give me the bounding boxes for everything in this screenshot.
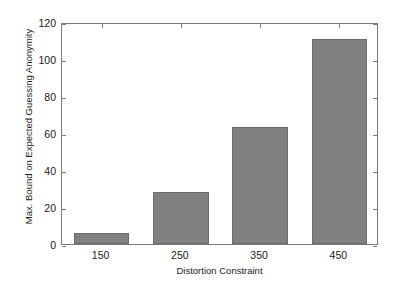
y-tick-label: 60 bbox=[44, 129, 56, 140]
y-tick-mark bbox=[62, 246, 66, 247]
y-tick-label: 120 bbox=[38, 18, 56, 29]
x-tick-label: 250 bbox=[171, 250, 189, 261]
y-axis-title-container: Max. Bound on Expected Guessing Anonymit… bbox=[0, 0, 1, 1]
plot-area bbox=[61, 23, 378, 245]
bar-150 bbox=[74, 233, 129, 244]
bar-450 bbox=[312, 39, 367, 244]
y-tick-label: 20 bbox=[44, 203, 56, 214]
bar-250 bbox=[153, 192, 208, 244]
x-axis-tick-labels: 150250350450 bbox=[61, 250, 378, 264]
x-axis-title: Distortion Constraint bbox=[61, 265, 378, 276]
y-axis-tick-labels: 020406080100120 bbox=[28, 23, 56, 245]
bar-series bbox=[62, 24, 377, 244]
y-tick-label: 100 bbox=[38, 55, 56, 66]
y-tick-label: 80 bbox=[44, 92, 56, 103]
bar-350 bbox=[232, 127, 287, 244]
y-tick-label: 40 bbox=[44, 166, 56, 177]
y-tick-mark-right bbox=[373, 246, 377, 247]
x-tick-label: 450 bbox=[330, 250, 348, 261]
x-tick-label: 150 bbox=[92, 250, 110, 261]
y-tick-label: 0 bbox=[50, 240, 56, 251]
x-tick-label: 350 bbox=[250, 250, 268, 261]
chart-figure: Max. Bound on Expected Guessing Anonymit… bbox=[0, 0, 400, 289]
